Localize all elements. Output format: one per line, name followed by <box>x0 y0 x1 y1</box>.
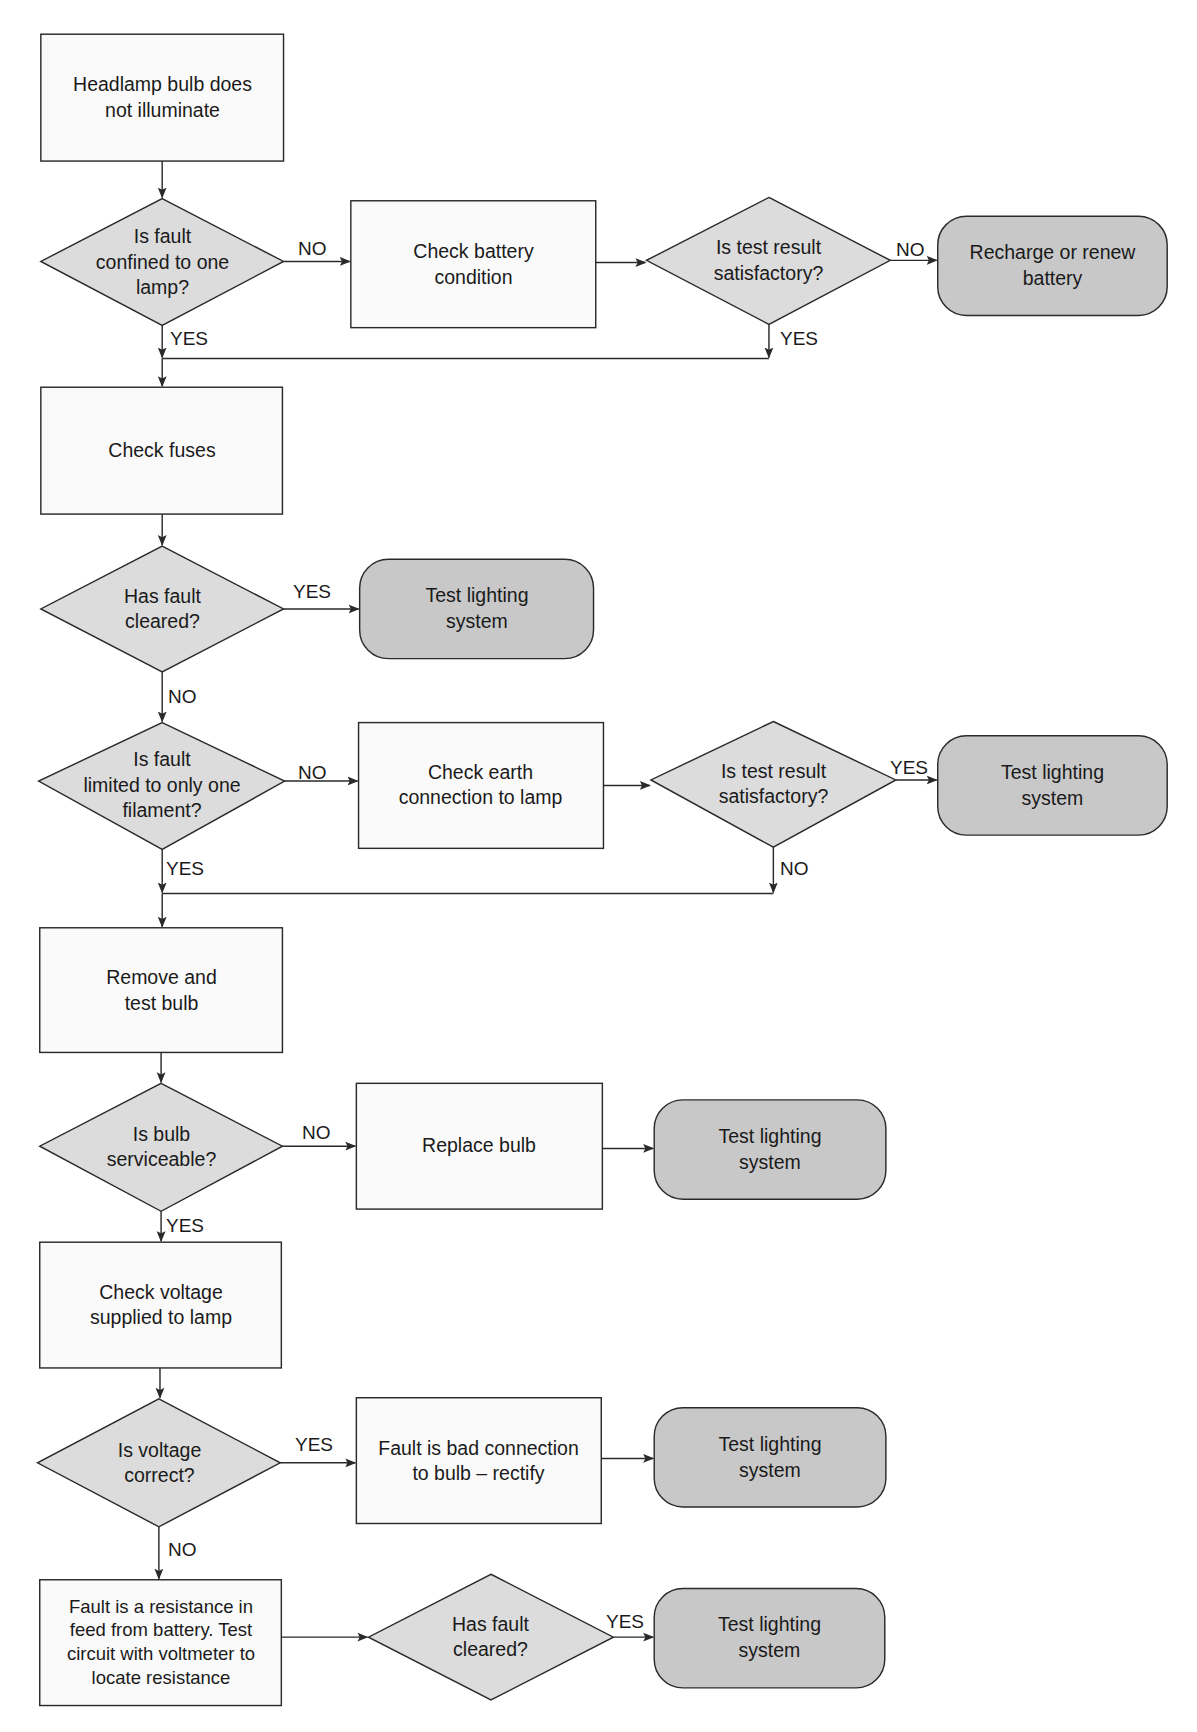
replace-bulb-box: Replace bulb <box>356 1083 602 1209</box>
decision-fuse-fault-cleared: Has fault cleared? <box>41 546 284 672</box>
bad-connection-box: Fault is bad connection to bulb – rectif… <box>356 1398 601 1524</box>
terminal-test-lighting-3: Test lighting system <box>654 1100 886 1199</box>
decision-final-fault-cleared: Has fault cleared? <box>368 1574 613 1700</box>
edge-label-confined-no: NO <box>298 239 327 258</box>
edge-label-fuse-cleared-no: NO <box>168 687 197 706</box>
check-earth-box: Check earth connection to lamp <box>358 722 603 848</box>
edge-label-voltage-correct-yes: YES <box>295 1435 333 1454</box>
check-voltage-box: Check voltage supplied to lamp <box>40 1242 282 1368</box>
resistance-feed-box: Fault is a resistance in feed from batte… <box>40 1579 282 1705</box>
edge-label-confined-yes: YES <box>170 329 208 348</box>
edge-label-one-filament-yes: YES <box>166 859 204 878</box>
edge-label-voltage-correct-no: NO <box>168 1540 197 1559</box>
edge-label-bulb-serviceable-yes: YES <box>166 1216 204 1235</box>
decision-one-filament: Is fault limited to only one filament? <box>39 722 285 849</box>
edge-label-final-cleared-yes: YES <box>606 1612 644 1631</box>
decision-fault-confined: Is fault confined to one lamp? <box>41 199 284 326</box>
remove-test-bulb-box: Remove and test bulb <box>40 928 283 1053</box>
edge-label-fuse-cleared-yes: YES <box>293 582 331 601</box>
edge-label-one-filament-no: NO <box>298 763 327 782</box>
terminal-test-lighting-1: Test lighting system <box>360 559 594 658</box>
terminal-recharge-battery: Recharge or renew battery <box>938 216 1167 315</box>
decision-earth-test: Is test result satisfactory? <box>651 721 896 847</box>
decision-bulb-serviceable: Is bulb serviceable? <box>40 1083 283 1211</box>
terminal-test-lighting-4: Test lighting system <box>654 1408 886 1507</box>
check-battery-box: Check battery condition <box>351 201 596 328</box>
edge-label-earth-test-yes: YES <box>890 758 928 777</box>
terminal-test-lighting-2: Test lighting system <box>938 736 1167 835</box>
decision-battery-test: Is test result satisfactory? <box>646 197 891 324</box>
decision-voltage-correct: Is voltage correct? <box>38 1399 281 1527</box>
terminal-test-lighting-5: Test lighting system <box>654 1588 885 1687</box>
edge-label-earth-test-no: NO <box>780 859 809 878</box>
check-fuses-box: Check fuses <box>41 387 283 514</box>
edge-label-battery-test-no: NO <box>896 240 925 259</box>
edge-label-battery-test-yes: YES <box>780 329 818 348</box>
start-box: Headlamp bulb does not illuminate <box>41 34 284 161</box>
edge-label-bulb-serviceable-no: NO <box>302 1123 331 1142</box>
flowchart-canvas: Headlamp bulb does not illuminate Is fau… <box>0 0 1197 1732</box>
